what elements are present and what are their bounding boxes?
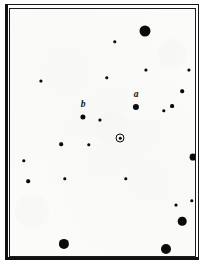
star-s11 (80, 114, 85, 119)
label-a: a (134, 90, 139, 100)
star-s02 (113, 40, 116, 43)
star-finder-chart: abk (0, 0, 205, 267)
star-s17 (26, 179, 30, 183)
star-s23 (59, 239, 69, 249)
star-s07 (180, 89, 184, 93)
target-star-marker (116, 134, 125, 143)
star-s06 (39, 79, 42, 82)
paper-grain-overlay (10, 9, 195, 256)
sky-field: abk (10, 9, 195, 256)
star-s20 (175, 204, 178, 207)
star-s18 (63, 177, 66, 180)
star-s16 (22, 159, 25, 162)
star-s05 (105, 76, 108, 79)
star-s21 (190, 199, 193, 202)
star-s24 (161, 244, 171, 254)
star-s08 (133, 104, 139, 110)
star-s19 (124, 177, 127, 180)
star-s12 (98, 118, 101, 121)
star-s04 (144, 68, 147, 71)
target-star-core (118, 136, 121, 139)
star-s03 (187, 68, 190, 71)
star-s13 (59, 142, 63, 146)
star-s22 (178, 217, 187, 226)
star-s01 (140, 26, 151, 37)
label-b: b (81, 100, 86, 110)
star-s09 (170, 104, 174, 108)
star-s14 (87, 143, 90, 146)
star-s10 (162, 109, 165, 112)
star-s15 (190, 154, 195, 161)
